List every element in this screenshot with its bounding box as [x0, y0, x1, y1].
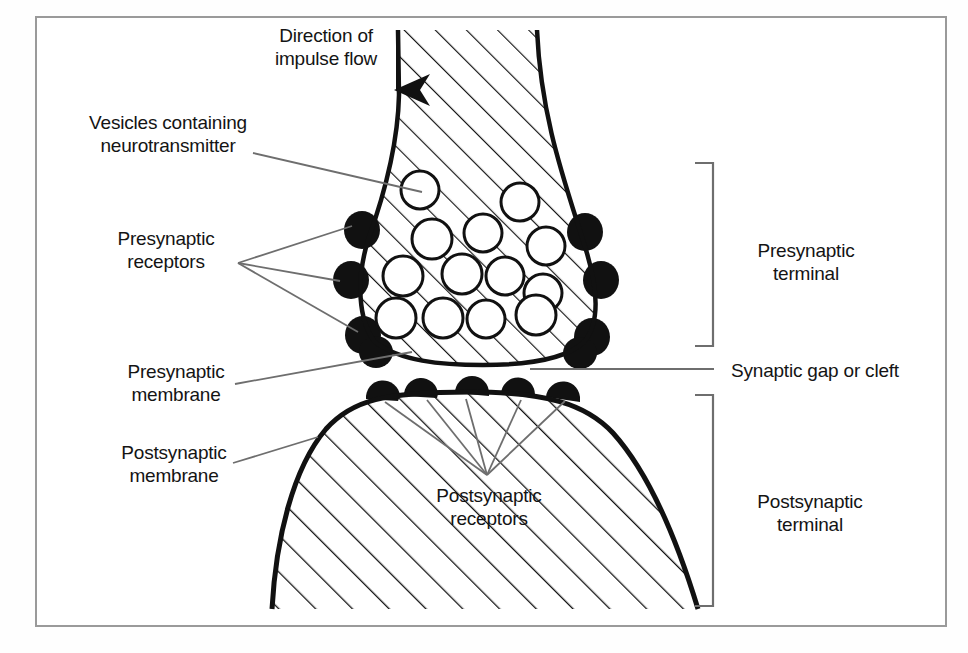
vesicle — [527, 227, 565, 265]
vesicle — [412, 219, 452, 259]
postsynaptic-receptors-label: Postsynaptic receptors — [404, 484, 574, 530]
presynaptic-terminal-label: Presynaptic terminal — [736, 239, 876, 285]
vesicle — [383, 256, 423, 296]
postsynaptic-terminal-label: Postsynaptic terminal — [736, 490, 884, 536]
presynaptic-terminal-shape — [333, 20, 619, 370]
vesicle — [516, 295, 556, 335]
bracket-group — [695, 163, 713, 606]
synaptic-gap-or-cleft-label: Synaptic gap or cleft — [731, 359, 951, 382]
vesicles-containing-neurotransmitter-label: Vesicles containing neurotransmitter — [78, 111, 258, 157]
vesicle — [464, 214, 502, 252]
presynaptic-receptors-label: Presynaptic receptors — [96, 227, 236, 273]
presynaptic-terminal-bracket-icon — [695, 163, 713, 346]
vesicle — [442, 254, 482, 294]
presynaptic-membrane-leader-line — [235, 352, 412, 384]
vesicle — [501, 183, 539, 221]
vesicle — [467, 300, 505, 338]
vesicle — [401, 171, 439, 209]
direction-of-impulse-flow-label: Direction of impulse flow — [236, 24, 416, 70]
presynaptic-membrane-label: Presynaptic membrane — [106, 360, 246, 406]
synapse-diagram-figure: Direction of impulse flow Vesicles conta… — [0, 0, 968, 653]
presynaptic-receptors-leader-line — [238, 226, 352, 263]
postsynaptic-terminal-bracket-icon — [695, 395, 713, 606]
postsynaptic-membrane-label: Postsynaptic membrane — [100, 441, 248, 487]
vesicle — [376, 298, 416, 338]
vesicle — [423, 298, 463, 338]
diagram-vector-canvas — [0, 0, 968, 653]
vesicle — [486, 257, 524, 295]
